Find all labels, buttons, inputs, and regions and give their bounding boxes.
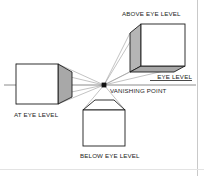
at-cube-front-face <box>16 64 58 104</box>
perspective-diagram: ABOVE EYE LEVEL AT EYE LEVEL BELOW EYE L… <box>0 0 204 176</box>
at-cube-right-face <box>58 64 72 104</box>
vanishing-point-marker <box>102 83 107 88</box>
above-cube-left-face <box>130 24 141 72</box>
above-cube-front-face <box>141 24 185 66</box>
below-eye-level-cube <box>83 100 125 146</box>
below-cube-front-face <box>83 110 125 146</box>
label-vanishing-point: VANISHING POINT <box>110 87 167 94</box>
label-above-eye-level: ABOVE EYE LEVEL <box>122 10 181 17</box>
perspective-illustration: ABOVE EYE LEVEL AT EYE LEVEL BELOW EYE L… <box>0 0 204 176</box>
ray-above-back-top <box>104 33 130 85</box>
label-eye-level: EYE LEVEL <box>157 73 192 80</box>
label-at-eye-level: AT EYE LEVEL <box>14 111 59 118</box>
at-eye-level-cube <box>16 64 72 104</box>
below-cube-top-face <box>83 100 125 110</box>
vanishing-point-dot <box>102 83 107 88</box>
label-below-eye-level: BELOW EYE LEVEL <box>80 152 140 159</box>
above-eye-level-cube <box>130 24 185 72</box>
